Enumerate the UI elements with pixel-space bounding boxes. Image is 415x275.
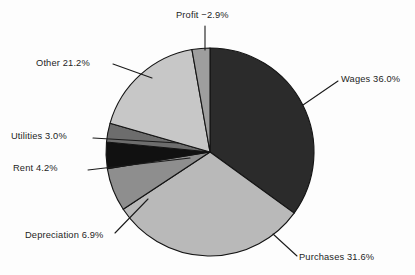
- pie-label-depreciation: Depreciation 6.9%: [25, 231, 104, 240]
- pie-label-rent: Rent 4.2%: [13, 164, 58, 173]
- leader-line-wages: [303, 81, 338, 105]
- leader-line-purchases: [273, 234, 297, 256]
- pie-label-other: Other 21.2%: [36, 59, 90, 68]
- pie-label-profit: Profit −2.9%: [176, 11, 229, 20]
- pie-chart-figure: Profit −2.9% Wages 36.0% Purchases 31.6%…: [0, 0, 415, 275]
- pie-label-purchases: Purchases 31.6%: [299, 253, 374, 262]
- pie-label-wages: Wages 36.0%: [341, 75, 400, 84]
- pie-label-utilities: Utilities 3.0%: [11, 132, 67, 141]
- pie-slices: [106, 48, 314, 256]
